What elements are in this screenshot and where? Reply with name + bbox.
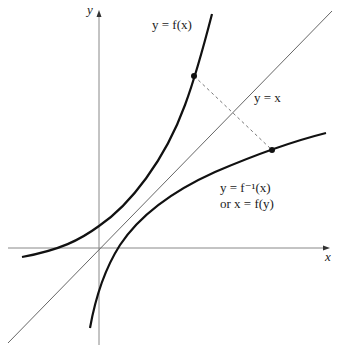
- inverse-label-line2: or x = f(y): [220, 197, 274, 211]
- diagram-svg: [0, 0, 343, 357]
- y-axis-arrow-icon: [97, 10, 102, 17]
- y-axis-label: y: [87, 3, 93, 17]
- diagram-canvas: y x y = f(x) y = x y = f⁻¹(x) or x = f(y…: [0, 0, 343, 357]
- curve-f: [22, 14, 212, 257]
- curve-f-inverse: [90, 133, 326, 328]
- f-label: y = f(x): [152, 18, 192, 32]
- point-on-f: [191, 73, 197, 79]
- identity-line: [8, 11, 332, 343]
- inverse-label-line1: y = f⁻¹(x): [220, 181, 271, 195]
- point-on-f-inverse: [269, 147, 275, 153]
- x-axis-label: x: [325, 250, 331, 264]
- identity-label: y = x: [254, 91, 281, 105]
